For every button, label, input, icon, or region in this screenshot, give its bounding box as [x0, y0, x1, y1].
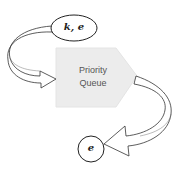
output-node-circle: [78, 136, 104, 162]
priority-queue-shape: [56, 48, 137, 107]
arrow-input-to-queue: [8, 26, 56, 88]
input-node-ellipse: [51, 15, 97, 41]
diagram-canvas: [0, 0, 181, 171]
